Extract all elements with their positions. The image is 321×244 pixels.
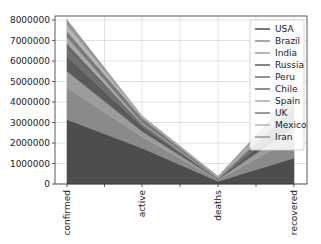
- legend-label-usa: USA: [275, 24, 294, 34]
- y-tick-label: 5000000: [10, 77, 50, 87]
- stacked-area-chart: 0100000020000003000000400000050000006000…: [0, 0, 321, 244]
- y-tick-label: 8000000: [10, 15, 50, 25]
- y-tick-label: 4000000: [10, 97, 50, 107]
- y-tick-label: 6000000: [10, 56, 50, 66]
- x-tick-label-deaths: deaths: [213, 190, 223, 221]
- y-axis: 0100000020000003000000400000050000006000…: [10, 15, 55, 189]
- legend-label-brazil: Brazil: [275, 36, 300, 46]
- x-tick-label-confirmed: confirmed: [62, 190, 72, 235]
- legend-label-russia: Russia: [275, 60, 304, 70]
- legend-label-uk: UK: [275, 108, 289, 118]
- x-axis: confirmedactivedeathsrecovered: [62, 184, 299, 235]
- legend-label-peru: Peru: [275, 72, 295, 82]
- legend-label-india: India: [275, 48, 297, 58]
- y-tick-label: 3000000: [10, 118, 50, 128]
- y-tick-label: 2000000: [10, 138, 50, 148]
- y-tick-label: 7000000: [10, 36, 50, 46]
- legend-label-iran: Iran: [275, 132, 293, 142]
- y-tick-label: 1000000: [10, 159, 50, 169]
- legend-label-chile: Chile: [275, 84, 298, 94]
- legend: USABrazilIndiaRussiaPeruChileSpainUKMexi…: [250, 20, 307, 150]
- x-tick-label-active: active: [137, 190, 147, 218]
- legend-label-spain: Spain: [275, 96, 300, 106]
- legend-label-mexico: Mexico: [275, 120, 307, 130]
- x-tick-label-recovered: recovered: [289, 190, 299, 235]
- y-tick-label: 0: [44, 179, 50, 189]
